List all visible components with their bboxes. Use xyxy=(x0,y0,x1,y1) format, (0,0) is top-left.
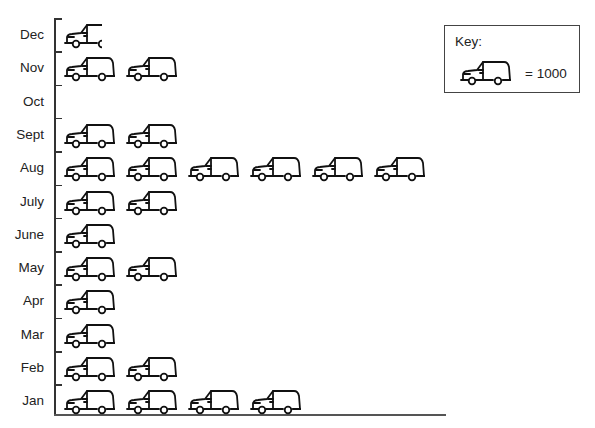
pictograph-row: Sept xyxy=(0,118,460,151)
pictograph-row: Mar xyxy=(0,318,460,351)
pictograph-row: Dec xyxy=(0,18,460,51)
car-icon xyxy=(460,59,511,86)
half-car-icon xyxy=(64,22,102,49)
car-icon xyxy=(126,355,177,382)
row-label: Jan xyxy=(0,384,44,417)
car-icon xyxy=(126,255,177,282)
car-icon xyxy=(312,155,363,182)
pictograph-row: Jan xyxy=(0,384,460,417)
pictograph-row: Nov xyxy=(0,51,460,84)
car-icon xyxy=(64,55,115,82)
row-label: June xyxy=(0,218,44,251)
car-icon xyxy=(64,222,115,249)
car-icon xyxy=(126,55,177,82)
car-icon xyxy=(64,255,115,282)
car-symbols xyxy=(64,355,177,382)
car-icon xyxy=(374,155,425,182)
row-label: Apr xyxy=(0,284,44,317)
pictograph-row: Aug xyxy=(0,151,460,184)
car-icon xyxy=(64,189,115,216)
pictograph-row: May xyxy=(0,251,460,284)
row-label: Mar xyxy=(0,318,44,351)
row-label: Oct xyxy=(0,85,44,118)
car-icon xyxy=(64,322,115,349)
pictograph-row: Apr xyxy=(0,284,460,317)
pictograph-row: July xyxy=(0,185,460,218)
pictograph-row: Oct xyxy=(0,85,460,118)
key-title: Key: xyxy=(455,34,482,49)
row-label: May xyxy=(0,251,44,284)
car-icon xyxy=(126,189,177,216)
car-symbols xyxy=(64,189,177,216)
car-icon xyxy=(64,288,115,315)
key-value: = 1000 xyxy=(525,66,567,81)
row-label: Aug xyxy=(0,151,44,184)
car-icon xyxy=(250,388,301,415)
car-symbols xyxy=(64,288,115,315)
row-label: Nov xyxy=(0,51,44,84)
car-icon xyxy=(64,388,115,415)
row-label: Sept xyxy=(0,118,44,151)
car-icon xyxy=(64,355,115,382)
row-label: Feb xyxy=(0,351,44,384)
car-symbols xyxy=(64,388,301,415)
pictograph-row: June xyxy=(0,218,460,251)
car-icon xyxy=(126,122,177,149)
car-symbols xyxy=(64,22,102,49)
car-symbols xyxy=(64,55,177,82)
pictograph-row: Feb xyxy=(0,351,460,384)
car-icon xyxy=(64,155,115,182)
car-symbols xyxy=(64,322,115,349)
car-symbols xyxy=(64,222,115,249)
key-legend: Key: = 1000 xyxy=(444,25,580,93)
car-icon xyxy=(126,155,177,182)
car-symbols xyxy=(64,122,177,149)
car-icon xyxy=(188,155,239,182)
car-icon xyxy=(250,155,301,182)
row-label: Dec xyxy=(0,18,44,51)
car-symbols xyxy=(64,255,177,282)
car-icon xyxy=(188,388,239,415)
car-symbols xyxy=(64,155,425,182)
row-label: July xyxy=(0,185,44,218)
car-icon xyxy=(64,122,115,149)
car-icon xyxy=(126,388,177,415)
